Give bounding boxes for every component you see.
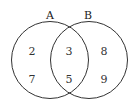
b-only-value-1: 8 [101,45,108,58]
a-only-value-1: 2 [29,45,36,58]
b-only-value-2: 9 [101,73,108,86]
set-b-label: B [84,9,92,22]
intersection-value-2: 5 [66,73,73,86]
intersection-value-1: 3 [66,45,73,58]
a-only-value-2: 7 [29,73,36,86]
venn-diagram: A B 2 7 3 5 8 9 [0,0,138,104]
set-a-label: A [45,9,55,22]
